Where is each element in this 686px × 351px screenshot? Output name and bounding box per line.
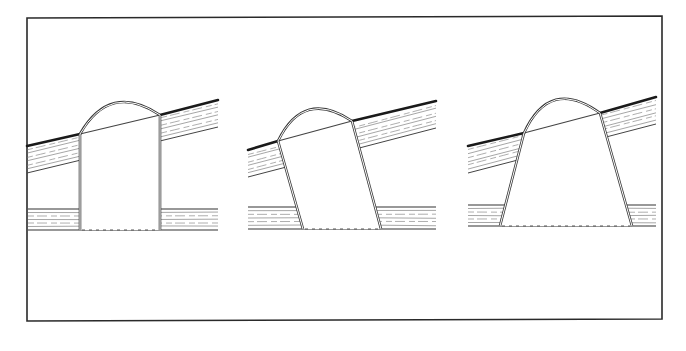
- diagram-canvas: [0, 0, 686, 351]
- panel-splayed-shaft: [468, 97, 656, 226]
- skylight-diagram: [0, 0, 686, 351]
- roof-surface-left: [468, 133, 524, 146]
- panel-straight-shaft: [27, 100, 218, 230]
- light-shaft-interior: [500, 113, 632, 226]
- roof-surface-right: [352, 101, 436, 121]
- roof-surface-left: [248, 141, 278, 150]
- roof-surface-right: [160, 100, 218, 115]
- panel-angled-shaft: [248, 101, 436, 229]
- roof-surface-left: [27, 134, 80, 146]
- light-shaft-interior: [80, 115, 160, 230]
